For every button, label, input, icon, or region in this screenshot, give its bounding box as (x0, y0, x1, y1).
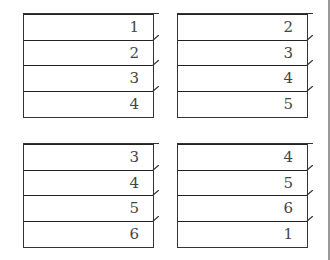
stack-cell: 6 (178, 195, 307, 221)
top-stub (308, 143, 313, 144)
cell-number: 6 (129, 225, 139, 243)
stack-bottom-right: 4 5 6 1 (177, 143, 308, 248)
stack-cell: 5 (178, 91, 307, 117)
cell-number: 4 (283, 148, 293, 166)
cell-number: 2 (129, 44, 139, 62)
stack-cell: 1 (24, 14, 153, 40)
slash-tick-icon (152, 165, 159, 171)
stack-cell: 4 (178, 65, 307, 91)
cell-number: 5 (129, 199, 139, 217)
stack-bottom-left: 3 4 5 6 (23, 143, 154, 248)
cell-number: 3 (129, 148, 139, 166)
stack-cell: 2 (178, 14, 307, 40)
cell-number: 6 (283, 199, 293, 217)
slash-tick-icon (152, 60, 159, 66)
stack-cell: 4 (24, 170, 153, 196)
stack-cell: 6 (24, 221, 153, 247)
stack-cell: 1 (178, 221, 307, 247)
stack-cell: 2 (24, 40, 153, 66)
stack-cell: 5 (178, 170, 307, 196)
cell-number: 1 (129, 18, 139, 36)
stack-cell: 5 (24, 195, 153, 221)
stack-cell: 3 (178, 40, 307, 66)
cell-number: 3 (129, 69, 139, 87)
top-stub (308, 13, 313, 14)
stack-top-right: 2 3 4 5 (177, 13, 308, 118)
cell-number: 3 (283, 44, 293, 62)
stack-top-left: 1 2 3 4 (23, 13, 154, 118)
slash-tick-icon (152, 86, 159, 92)
top-stub (154, 143, 159, 144)
slash-tick-icon (152, 216, 159, 222)
stack-cell: 3 (24, 65, 153, 91)
slash-tick-icon (306, 190, 313, 196)
stack-cell: 4 (178, 144, 307, 170)
slash-tick-icon (306, 86, 313, 92)
cell-number: 5 (283, 95, 293, 113)
slash-tick-icon (306, 35, 313, 41)
cell-number: 4 (129, 95, 139, 113)
cell-number: 1 (283, 225, 293, 243)
slash-tick-icon (306, 60, 313, 66)
top-stub (154, 13, 159, 14)
slash-tick-icon (306, 216, 313, 222)
cell-number: 2 (283, 18, 293, 36)
cell-number: 4 (129, 174, 139, 192)
slash-tick-icon (152, 35, 159, 41)
stack-cell: 3 (24, 144, 153, 170)
cell-number: 4 (283, 69, 293, 87)
stack-cell: 4 (24, 91, 153, 117)
slash-tick-icon (152, 190, 159, 196)
slash-tick-icon (306, 165, 313, 171)
cell-number: 5 (283, 174, 293, 192)
